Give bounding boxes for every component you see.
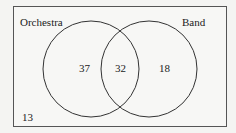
neither-value: 13 [22, 112, 33, 123]
band-label: Band [182, 17, 205, 28]
orchestra-only-value: 37 [79, 63, 90, 74]
band-only-value: 18 [159, 63, 170, 74]
orchestra-label: Orchestra [20, 17, 63, 28]
intersection-value: 32 [115, 63, 126, 74]
